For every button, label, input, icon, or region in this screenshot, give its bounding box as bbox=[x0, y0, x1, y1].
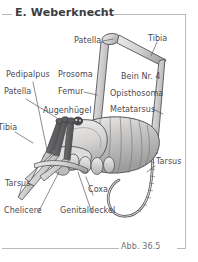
frame-rule-bottom-left bbox=[2, 248, 119, 249]
label-tibia-top: Tibia bbox=[148, 35, 167, 43]
label-patella-left: Patella bbox=[4, 88, 31, 96]
figure-caption: Abb. 36.5 bbox=[121, 242, 160, 251]
label-bein-nr-4: Bein Nr. 4 bbox=[121, 73, 160, 81]
eye-highlight-right bbox=[79, 120, 81, 122]
leader-tibia-left bbox=[15, 132, 33, 143]
label-pedipalpus: Pedipalpus bbox=[6, 71, 50, 79]
label-opisthosoma: Opisthosoma bbox=[110, 90, 163, 98]
label-femur: Femur bbox=[58, 88, 84, 96]
leader-femur bbox=[84, 92, 97, 95]
leader-pedipalpus bbox=[33, 82, 47, 150]
label-tarsus-right: Tarsus bbox=[156, 158, 181, 166]
label-metatarsus: Metatarsus bbox=[110, 106, 155, 114]
label-tarsus-left: Tarsus bbox=[5, 180, 30, 188]
label-chelicere: Chelicere bbox=[4, 207, 42, 215]
frame-rule-bottom-right bbox=[177, 248, 186, 249]
left-patella-joint-3 bbox=[67, 118, 74, 124]
label-tibia-left: Tibia bbox=[0, 124, 17, 132]
label-patella-top: Patella bbox=[74, 37, 101, 45]
label-genitaldeckel: Genitaldeckel bbox=[60, 207, 115, 215]
figure-page: E. Weberknecht bbox=[0, 0, 198, 262]
label-coxa: Coxa bbox=[88, 186, 108, 194]
eye-highlight-left bbox=[75, 119, 77, 121]
label-augenhuegel: Augenhügel bbox=[43, 107, 91, 115]
label-prosoma: Prosoma bbox=[58, 71, 93, 79]
